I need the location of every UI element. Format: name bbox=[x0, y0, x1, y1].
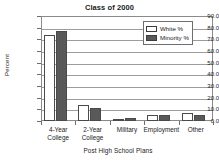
x-axis-label: Post High School Plans bbox=[28, 147, 208, 154]
bar-white bbox=[44, 35, 55, 121]
chart-title: Class of 2000 bbox=[0, 3, 219, 12]
x-tick-mark bbox=[179, 121, 180, 125]
x-tick-mark bbox=[213, 121, 214, 125]
x-tick-mark bbox=[41, 121, 42, 125]
bar-white bbox=[78, 105, 89, 121]
bar-group bbox=[75, 16, 109, 121]
bar-minority bbox=[159, 115, 170, 121]
x-tick-label: Other bbox=[173, 126, 219, 134]
y-axis-label: Percent bbox=[4, 45, 10, 85]
legend-swatch-white bbox=[146, 26, 157, 32]
legend-item-white: White % bbox=[146, 24, 189, 33]
legend-label-minority: Minority % bbox=[160, 34, 189, 41]
bar-white bbox=[182, 113, 193, 121]
bar-group bbox=[110, 16, 144, 121]
chart-legend: White % Minority % bbox=[143, 21, 193, 45]
bar-minority bbox=[194, 115, 205, 121]
x-tick-mark bbox=[110, 121, 111, 125]
legend-label-white: White % bbox=[160, 25, 183, 32]
bar-minority bbox=[56, 31, 67, 121]
chart-figure: Class of 2000 Percent 0.010.020.030.040.… bbox=[0, 0, 219, 164]
bar-group bbox=[41, 16, 75, 121]
x-tick-mark bbox=[75, 121, 76, 125]
legend-item-minority: Minority % bbox=[146, 33, 189, 42]
legend-swatch-minority bbox=[146, 35, 157, 41]
bar-minority bbox=[125, 118, 136, 122]
bar-white bbox=[113, 119, 124, 121]
x-tick-mark bbox=[144, 121, 145, 125]
bar-minority bbox=[90, 108, 101, 121]
bar-white bbox=[147, 115, 158, 121]
